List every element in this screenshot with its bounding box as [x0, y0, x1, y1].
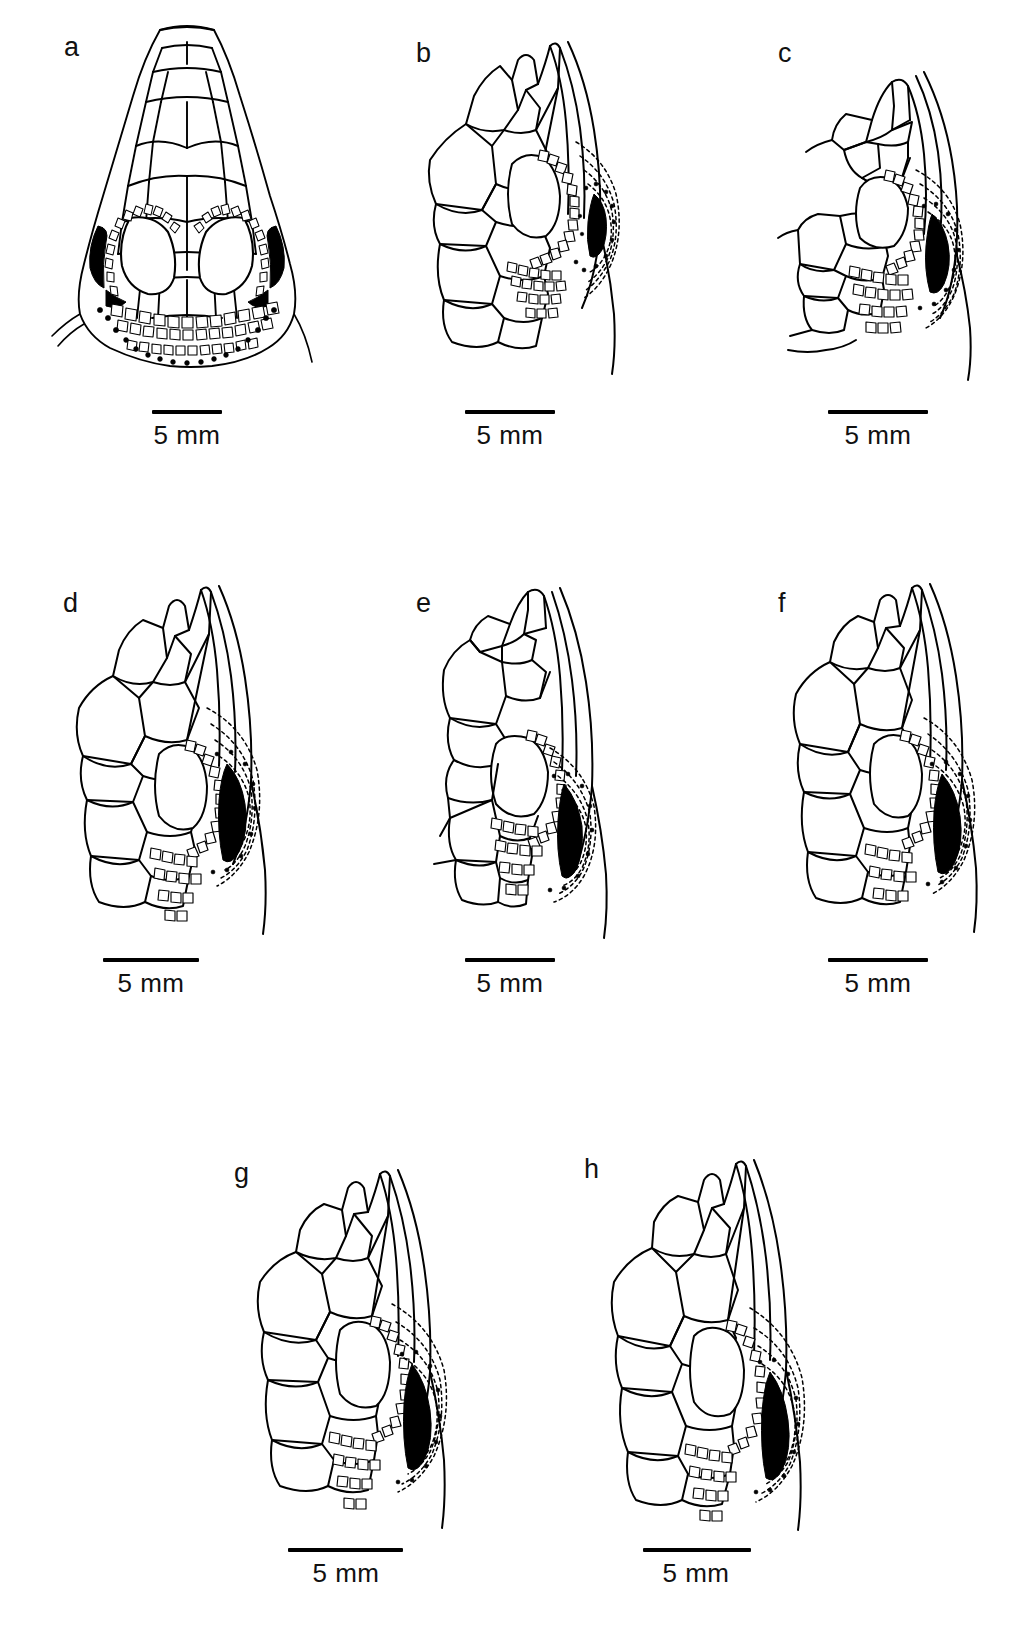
panel-b: b [400, 18, 680, 398]
panel-g-scalebar-label: 5 mm [248, 1560, 444, 1586]
panel-d-scalebar-line [103, 958, 199, 962]
panel-g-drawing [220, 1108, 510, 1578]
panel-b-scalebar-line [465, 410, 555, 414]
panel-f: f [760, 558, 1032, 978]
figure-plate: a [0, 0, 1032, 1626]
panel-c-scalebar-label: 5 mm [800, 422, 956, 448]
panel-d-drawing [55, 558, 335, 978]
panel-h-scalebar-label: 5 mm [598, 1560, 794, 1586]
panel-g: g [220, 1108, 510, 1578]
panel-f-drawing [760, 558, 1032, 978]
panel-h-scalebar-line [643, 1548, 751, 1552]
panel-f-scalebar-label: 5 mm [800, 970, 956, 996]
panel-e-drawing [400, 558, 680, 978]
panel-a-drawing [40, 18, 340, 398]
panel-c-scalebar-line [828, 410, 928, 414]
panel-c: c [760, 18, 1032, 398]
panel-a: a [40, 18, 340, 398]
panel-a-scalebar-label: 5 mm [112, 422, 262, 448]
panel-g-scalebar-line [288, 1548, 403, 1552]
panel-a-scalebar-line [152, 410, 222, 414]
panel-e-scalebar-line [465, 958, 555, 962]
panel-c-drawing [760, 18, 1032, 398]
panel-h: h [570, 1108, 860, 1578]
panel-b-scalebar-label: 5 mm [440, 422, 580, 448]
panel-h-drawing [570, 1108, 860, 1578]
panel-e: e [400, 558, 680, 978]
panel-d-scalebar-label: 5 mm [75, 970, 227, 996]
panel-b-drawing [400, 18, 680, 398]
panel-d: d [55, 558, 335, 978]
panel-e-scalebar-label: 5 mm [440, 970, 580, 996]
panel-f-scalebar-line [828, 958, 928, 962]
